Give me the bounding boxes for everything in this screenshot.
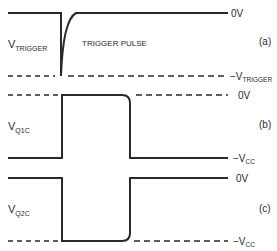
trigger-pulse-annotation: TRIGGER PULSE <box>82 39 147 48</box>
panel-tag-c: (c) <box>259 203 271 214</box>
level-label-0v-b: 0V <box>238 90 251 101</box>
signal-label-a: VTRIGGER <box>8 38 47 52</box>
signal-label-c: VQ2C <box>8 203 30 218</box>
level-label-neg-vcc-c: −VCC <box>233 236 255 248</box>
level-label-neg-trigger: −VTRIGGER <box>230 71 272 83</box>
level-label-neg-vcc-b: −VCC <box>233 153 255 165</box>
panel-tag-a: (a) <box>259 36 271 47</box>
panel-tag-b: (b) <box>259 119 271 130</box>
panel-c-waveform <box>8 178 228 241</box>
level-label-0v-a: 0V <box>231 8 244 19</box>
signal-label-b: VQ1C <box>8 120 30 135</box>
panel-b-waveform <box>8 95 228 158</box>
waveform-diagram: VTRIGGER TRIGGER PULSE 0V (a) −VTRIGGER … <box>0 0 277 251</box>
level-label-0v-c: 0V <box>236 173 249 184</box>
